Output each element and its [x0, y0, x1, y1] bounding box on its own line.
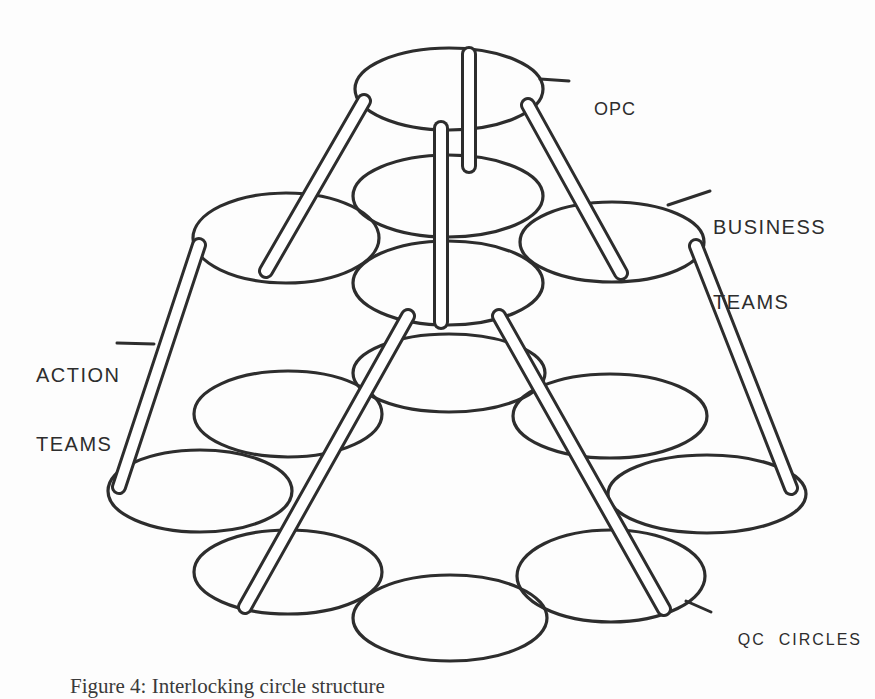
pointer-business: [668, 191, 710, 205]
pointer-qc: [686, 601, 711, 612]
figure-caption: Figure 4: Interlocking circle structure: [70, 674, 385, 699]
rod-opc-to-left-team-fill: [266, 101, 364, 271]
label-business-teams: BUSINESS TEAMS: [713, 165, 826, 365]
pointer-opc: [540, 79, 569, 81]
label-business-line1: BUSINESS: [713, 215, 826, 240]
rod-action-inner-right-fill: [499, 316, 664, 609]
pointer-action: [117, 343, 154, 344]
circle-qc-bottom-center: [353, 575, 547, 661]
label-opc: OPC: [570, 72, 636, 147]
circle-qc-far-left: [108, 450, 292, 532]
circle-qc-bottom-right: [517, 530, 705, 622]
label-action-line1: ACTION: [36, 364, 121, 387]
label-qc-text: QC CIRCLES: [738, 631, 862, 648]
rod-action-inner-left-fill: [245, 316, 408, 607]
label-action-teams: ACTION TEAMS: [36, 318, 121, 502]
label-business-line2: TEAMS: [713, 290, 826, 315]
label-qc-circles: QC CIRCLES: [712, 602, 862, 677]
label-opc-text: OPC: [594, 99, 636, 119]
circle-opc: [355, 48, 543, 130]
label-action-line2: TEAMS: [36, 433, 121, 456]
